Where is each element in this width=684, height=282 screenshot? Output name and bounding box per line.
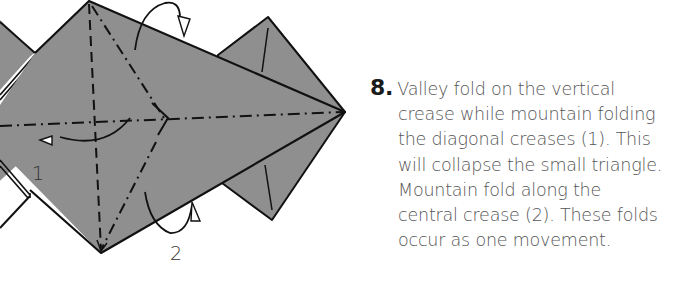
instruction-line-2: crease while mountain folding (370, 102, 680, 127)
origami-fold-diagram: 1 2 (0, 0, 360, 282)
step-instructions: 8.Valley fold on the vertical crease whi… (370, 75, 680, 253)
fold-label-1: 1 (32, 162, 44, 184)
instruction-line-5: Mountain fold along the (370, 178, 680, 203)
instruction-line-4: will collapse the small triangle. (370, 153, 680, 178)
instruction-text-1: Valley fold on the vertical (397, 79, 615, 99)
instruction-line-7: occur as one movement. (370, 228, 680, 253)
main-diamond (0, 1, 345, 253)
instruction-line-3: the diagonal creases (1). This (370, 127, 680, 152)
instruction-line-6: central crease (2). These folds (370, 203, 680, 228)
fold-label-2: 2 (170, 242, 182, 264)
instruction-line-1: 8.Valley fold on the vertical (370, 75, 680, 102)
step-number: 8. (370, 75, 393, 100)
